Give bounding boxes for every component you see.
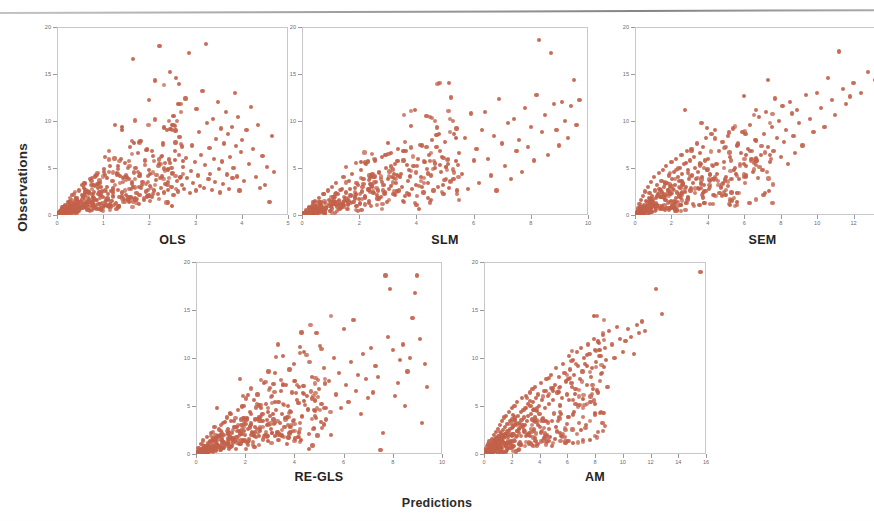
data-point bbox=[121, 180, 125, 184]
data-point bbox=[790, 111, 794, 115]
data-point bbox=[762, 132, 766, 136]
x-axis-tick bbox=[484, 454, 485, 458]
data-point bbox=[722, 166, 726, 170]
data-point bbox=[572, 410, 576, 414]
data-point bbox=[287, 415, 291, 419]
data-point bbox=[86, 189, 90, 193]
data-point bbox=[339, 406, 343, 410]
data-point bbox=[654, 205, 658, 209]
data-point bbox=[581, 397, 585, 401]
data-point bbox=[322, 366, 326, 370]
x-axis-tick bbox=[671, 215, 672, 219]
data-point bbox=[298, 345, 302, 349]
data-point bbox=[736, 142, 740, 146]
data-point bbox=[218, 190, 222, 194]
panel-title-ols: OLS bbox=[57, 233, 288, 247]
data-point bbox=[549, 51, 553, 55]
data-point bbox=[683, 208, 687, 212]
x-axis-tick-label: 6 bbox=[342, 459, 345, 465]
data-point bbox=[263, 183, 267, 187]
data-point bbox=[101, 174, 105, 178]
scatter-panel-slm: 024681005101520SLM bbox=[302, 27, 588, 215]
data-point bbox=[669, 160, 673, 164]
data-point bbox=[588, 438, 592, 442]
data-point bbox=[701, 195, 705, 199]
data-point bbox=[537, 38, 541, 42]
y-axis-tick-label: 15 bbox=[464, 307, 478, 313]
data-point bbox=[557, 375, 561, 379]
data-point bbox=[183, 96, 187, 100]
data-point bbox=[401, 342, 405, 346]
data-point bbox=[361, 352, 365, 356]
data-point bbox=[822, 125, 826, 129]
data-point bbox=[360, 185, 364, 189]
data-point bbox=[557, 390, 561, 394]
y-axis-tick-label: 10 bbox=[37, 118, 51, 124]
x-axis-tick bbox=[623, 454, 624, 458]
data-point bbox=[219, 126, 223, 130]
data-point bbox=[190, 143, 194, 147]
data-point bbox=[445, 168, 449, 172]
data-point bbox=[315, 433, 319, 437]
data-point bbox=[421, 190, 425, 194]
data-point bbox=[580, 379, 584, 383]
data-point bbox=[429, 151, 433, 155]
data-point bbox=[497, 97, 501, 101]
data-point bbox=[704, 136, 708, 140]
data-point bbox=[754, 157, 758, 161]
data-point bbox=[270, 134, 274, 138]
y-axis-tick bbox=[192, 358, 196, 359]
x-axis-tick-label: 2 bbox=[148, 220, 151, 226]
data-point bbox=[525, 419, 529, 423]
data-point bbox=[269, 441, 273, 445]
data-point bbox=[235, 174, 239, 178]
data-point bbox=[726, 184, 730, 188]
data-point bbox=[543, 431, 547, 435]
data-point bbox=[161, 177, 165, 181]
data-point bbox=[415, 194, 419, 198]
data-point bbox=[372, 180, 376, 184]
data-point bbox=[206, 177, 210, 181]
x-axis-tick-label: 2 bbox=[358, 220, 361, 226]
x-axis-tick-label: 3 bbox=[194, 220, 197, 226]
data-point bbox=[756, 176, 760, 180]
data-point bbox=[592, 398, 596, 402]
data-point bbox=[588, 400, 592, 404]
data-point bbox=[173, 174, 177, 178]
data-point bbox=[256, 123, 260, 127]
data-point bbox=[304, 353, 308, 357]
data-point bbox=[249, 412, 253, 416]
data-point bbox=[380, 207, 384, 211]
data-point bbox=[402, 113, 406, 117]
data-point bbox=[370, 152, 374, 156]
data-point bbox=[254, 405, 258, 409]
data-point bbox=[456, 175, 460, 179]
data-point bbox=[142, 196, 146, 200]
data-point bbox=[528, 390, 532, 394]
panel-plot-area bbox=[635, 27, 874, 215]
data-point bbox=[373, 364, 377, 368]
x-axis-tick-label: 2 bbox=[670, 220, 673, 226]
data-point bbox=[643, 329, 647, 333]
data-point bbox=[175, 179, 179, 183]
data-point bbox=[748, 149, 752, 153]
data-point bbox=[742, 157, 746, 161]
data-point bbox=[281, 354, 285, 358]
data-point bbox=[249, 105, 253, 109]
data-point bbox=[169, 185, 173, 189]
data-point bbox=[358, 201, 362, 205]
data-point bbox=[130, 180, 134, 184]
data-point bbox=[677, 194, 681, 198]
data-point bbox=[181, 165, 185, 169]
panel-title-sem: SEM bbox=[635, 233, 874, 247]
data-point bbox=[423, 362, 427, 366]
x-axis-tick bbox=[651, 454, 652, 458]
data-point bbox=[859, 91, 863, 95]
data-point bbox=[401, 158, 405, 162]
y-axis-tick-label: 20 bbox=[37, 24, 51, 30]
data-point bbox=[83, 198, 87, 202]
data-point bbox=[215, 406, 219, 410]
data-point bbox=[576, 404, 580, 408]
data-point bbox=[511, 445, 515, 449]
data-point bbox=[757, 165, 761, 169]
